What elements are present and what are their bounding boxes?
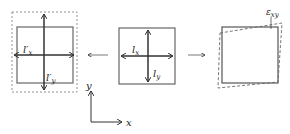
label-epsilon-xy: εxy	[266, 7, 280, 19]
coordinate-axes: y x	[85, 80, 132, 128]
right-panel: εxy	[218, 7, 282, 88]
label-lx: lx	[132, 44, 139, 57]
x-axis-label: x	[126, 117, 132, 128]
label-ly: ly	[153, 68, 161, 81]
center-panel: lx ly	[119, 28, 175, 84]
left-panel: l′x l′y	[12, 12, 77, 92]
strain-diagram: l′x l′y lx ly εxy y x	[0, 0, 290, 134]
square-element	[222, 27, 278, 83]
y-axis-label: y	[85, 80, 92, 91]
sheared-element	[218, 23, 282, 88]
